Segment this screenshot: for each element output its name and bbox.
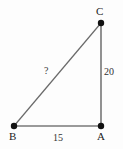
- geometry-diagram: C A B 20 15 ?: [0, 0, 123, 149]
- unknown-side-label-bc: ?: [44, 65, 48, 76]
- side-length-label-ca: 20: [104, 66, 114, 77]
- vertex-label-b: B: [9, 131, 16, 142]
- vertex-dot-b: [11, 123, 17, 129]
- hypotenuse-line: [14, 23, 101, 126]
- vertex-label-c: C: [96, 6, 103, 17]
- side-length-label-ba: 15: [53, 132, 63, 143]
- vertex-dot-c: [98, 20, 104, 26]
- vertex-dot-a: [98, 123, 104, 129]
- vertex-label-a: A: [97, 131, 105, 142]
